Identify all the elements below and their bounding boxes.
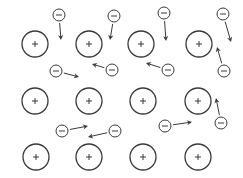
electron: [215, 117, 227, 129]
positive-ion: [186, 31, 212, 57]
electron: [217, 8, 229, 20]
positive-ion: [76, 31, 102, 57]
electron: [109, 125, 121, 137]
electron: [218, 65, 230, 77]
electron: [108, 10, 120, 22]
arrow-icon: [173, 120, 192, 125]
electron: [50, 65, 62, 77]
positive-ion: [23, 144, 49, 170]
arrow-icon: [70, 124, 88, 129]
arrow-icon: [58, 23, 63, 40]
electron: [162, 64, 174, 76]
arrow-icon: [163, 21, 168, 41]
positive-ion: [130, 88, 156, 114]
positive-ion: [76, 144, 102, 170]
arrow-icon: [146, 62, 160, 68]
positive-ion: [185, 144, 211, 170]
electron: [56, 125, 68, 137]
arrow-icon: [214, 98, 219, 115]
positive-ion: [130, 144, 156, 170]
arrow-icon: [64, 73, 79, 78]
electron: [106, 64, 118, 76]
positive-ions-layer: [22, 31, 212, 170]
arrow-icon: [108, 24, 113, 40]
electron: [53, 9, 65, 21]
metal-lattice-diagram: [0, 0, 243, 178]
arrow-icon: [216, 47, 222, 63]
electron: [159, 120, 171, 132]
positive-ion: [76, 88, 102, 114]
positive-ion: [22, 88, 48, 114]
positive-ion: [185, 88, 211, 114]
arrow-icon: [92, 63, 104, 68]
positive-ion: [128, 31, 154, 57]
arrow-icon: [88, 133, 107, 139]
electrons-layer: [50, 7, 230, 137]
arrow-icon: [225, 22, 232, 42]
positive-ion: [22, 31, 48, 57]
electron: [158, 7, 170, 19]
